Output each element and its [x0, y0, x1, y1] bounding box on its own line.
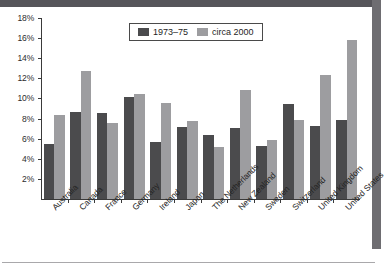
- x-axis-tick-mark: [174, 200, 175, 203]
- bar: [107, 123, 118, 199]
- x-axis-tick-mark: [307, 200, 308, 203]
- y-axis-tick-label: 12%: [8, 73, 34, 83]
- bar: [267, 140, 278, 199]
- y-axis-tick-label: 16%: [8, 33, 34, 43]
- legend-entry-0: 1973–75: [138, 27, 188, 37]
- x-axis-tick-mark: [68, 200, 69, 203]
- x-axis-tick-mark: [280, 200, 281, 203]
- y-axis-tick-label: 18%: [8, 13, 34, 23]
- x-axis-tick-mark: [254, 200, 255, 203]
- bar: [44, 144, 55, 199]
- y-axis-tick-label: 8%: [8, 114, 34, 124]
- legend-label-1: circa 2000: [212, 27, 254, 37]
- bar: [177, 127, 188, 199]
- bar: [187, 121, 198, 199]
- bar: [124, 97, 135, 199]
- y-axis-tick-label: 14%: [8, 53, 34, 63]
- bar: [81, 71, 92, 199]
- x-axis-tick-mark: [227, 200, 228, 203]
- bar: [134, 94, 145, 199]
- legend-entry-1: circa 2000: [197, 27, 254, 37]
- legend-swatch-icon-0: [138, 28, 149, 36]
- y-axis-line: [41, 18, 42, 199]
- y-axis-tick-label: 10%: [8, 93, 34, 103]
- bar: [294, 120, 305, 199]
- x-axis-tick-mark: [147, 200, 148, 203]
- bar: [54, 115, 65, 199]
- x-axis-tick-mark: [201, 200, 202, 203]
- x-axis-tick-mark: [121, 200, 122, 203]
- bar: [161, 103, 172, 199]
- y-axis-tick-label: 4%: [8, 154, 34, 164]
- chart-legend: 1973–75 circa 2000: [129, 23, 263, 41]
- x-axis-tick-mark: [94, 200, 95, 203]
- x-axis-tick-mark: [333, 200, 334, 203]
- legend-swatch-icon-1: [197, 28, 208, 36]
- legend-label-0: 1973–75: [153, 27, 188, 37]
- y-axis-tick-label: 2%: [8, 174, 34, 184]
- y-axis-tick-label: 6%: [8, 134, 34, 144]
- bar: [203, 135, 214, 199]
